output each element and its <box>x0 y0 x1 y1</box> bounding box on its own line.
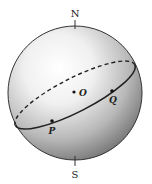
point-p <box>50 119 54 123</box>
south-label: S <box>72 169 79 180</box>
north-label: N <box>71 8 80 19</box>
center-point <box>72 90 75 93</box>
p-label: P <box>48 126 56 136</box>
sphere-diagram: N S O Q P <box>0 0 152 184</box>
q-label: Q <box>109 95 117 105</box>
point-q <box>110 89 114 93</box>
center-label: O <box>79 88 87 98</box>
